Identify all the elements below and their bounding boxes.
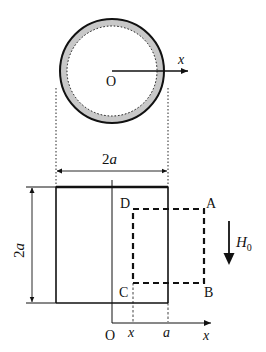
top-x-axis-label: x [177,52,185,67]
bottom-tick-a-label: a [163,325,170,340]
bottom-tick-x-label: x [127,325,135,340]
field-h0-label: H0 [235,234,252,253]
bottom-x-axis: O x a x [105,323,211,343]
bottom-origin-label: O [105,328,115,343]
height-dimension-label: 2a [11,243,27,258]
corner-label-a: A [206,196,217,211]
corner-label-b: B [204,285,213,300]
top-origin-label: O [106,74,116,89]
corner-label-c: C [119,285,128,300]
corner-label-d: D [120,196,130,211]
top-view-cross-section: O x [60,19,188,123]
magnetic-cylinder-diagram: O x 2a 2a D A C B H0 [0,0,266,352]
bottom-x-axis-label: x [202,328,210,343]
height-dimension: 2a [11,188,32,302]
width-dimension: 2a [57,151,167,171]
width-dimension-label: 2a [102,151,117,167]
field-h0-arrow: H0 [224,221,252,265]
